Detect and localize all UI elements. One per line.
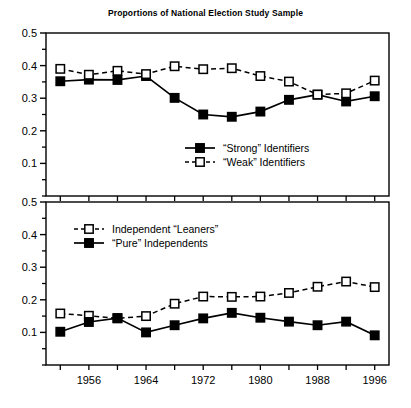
data-point-marker [371,283,379,291]
data-point-marker [228,113,236,121]
data-point-marker [199,110,207,118]
y-tick-label: 0.1 [22,326,37,338]
data-point-marker [142,70,150,78]
legend-label: “Pure” Independents [112,237,208,249]
data-point-marker [313,90,321,98]
data-point-marker [313,321,321,329]
data-point-marker [113,76,121,84]
legend-item: “Strong” Identifiers [185,142,309,154]
data-point-marker [371,92,379,100]
legend-label: “Weak” Identifiers [223,156,305,168]
series-line [60,313,374,335]
data-point-marker [142,328,150,336]
series-line [60,76,374,117]
y-tick-label: 0.2 [22,294,37,306]
data-point-marker [170,321,178,329]
data-point-marker [113,67,121,75]
data-point-marker [285,317,293,325]
data-point-marker [256,107,264,115]
data-point-marker [142,312,150,320]
legend-top: “Strong” Identifiers“Weak” Identifiers [185,142,309,168]
data-point-marker [285,289,293,297]
x-tick-label: 1996 [362,374,386,386]
y-tick-label: 0.4 [22,229,37,241]
data-point-marker [256,72,264,80]
legend-item: Independent “Leaners” [74,223,219,235]
data-point-marker [342,89,350,97]
series-line [60,282,374,319]
data-point-marker [56,65,64,73]
data-point-marker [285,77,293,85]
data-point-marker [199,292,207,300]
data-point-marker [371,331,379,339]
data-point-marker [56,328,64,336]
data-point-marker [85,71,93,79]
data-point-marker [342,97,350,105]
y-tick-label: 0.1 [22,157,37,169]
series-1 [56,72,379,121]
legend-marker-swatch [85,239,93,247]
legend-item: “Pure” Independents [74,237,208,249]
data-point-marker [342,277,350,285]
data-point-marker [56,77,64,85]
data-point-marker [170,62,178,70]
data-point-marker [313,283,321,291]
x-tick-label: 1964 [134,374,158,386]
data-point-marker [256,292,264,300]
data-point-marker [170,94,178,102]
chart-panel-top: 0.10.20.30.40.5“Strong” Identifiers“Weak… [22,27,389,201]
legend-bottom: Independent “Leaners”“Pure” Independents [74,223,219,249]
data-point-marker [199,314,207,322]
legend-marker-swatch [85,225,93,233]
data-point-marker [228,64,236,72]
data-point-marker [371,76,379,84]
legend-marker-swatch [196,158,204,166]
y-tick-label: 0.4 [22,60,37,72]
chart-panel-bottom: 0.10.20.30.40.5195619641972198019881996I… [22,196,389,386]
data-point-marker [56,309,64,317]
chart-canvas: 0.10.20.30.40.5“Strong” Identifiers“Weak… [0,0,411,408]
legend-marker-swatch [196,144,204,152]
data-point-marker [228,293,236,301]
legend-label: Independent “Leaners” [112,223,219,235]
x-tick-label: 1988 [305,374,329,386]
y-tick-label: 0.2 [22,125,37,137]
x-tick-label: 1956 [77,374,101,386]
y-tick-label: 0.5 [22,196,37,208]
data-point-marker [256,314,264,322]
y-tick-label: 0.3 [22,92,37,104]
figure-root: Proportions of National Election Study S… [0,0,411,408]
data-point-marker [170,300,178,308]
data-point-marker [285,96,293,104]
x-tick-label: 1972 [191,374,215,386]
data-point-marker [342,317,350,325]
legend-item: “Weak” Identifiers [185,156,305,168]
plot-frame [46,33,389,196]
x-tick-label: 1980 [248,374,272,386]
data-point-marker [85,318,93,326]
legend-label: “Strong” Identifiers [223,142,309,154]
data-point-marker [228,309,236,317]
series-2 [56,309,379,340]
data-point-marker [199,65,207,73]
y-tick-label: 0.5 [22,27,37,39]
data-point-marker [113,314,121,322]
y-tick-label: 0.3 [22,261,37,273]
